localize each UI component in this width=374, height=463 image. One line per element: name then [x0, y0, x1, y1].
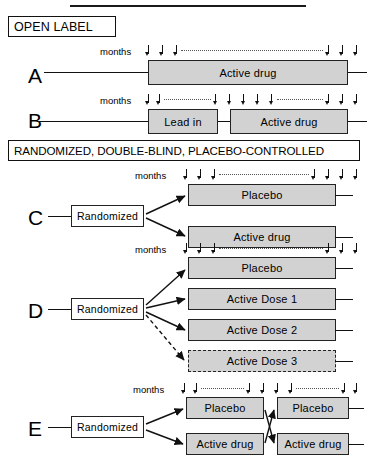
timeline-d-dose1-tail	[335, 299, 353, 300]
timeline-e-active-tail	[348, 444, 364, 445]
arm-b-box-lead-in[interactable]: Lead in	[148, 109, 218, 134]
month-ruler-c	[182, 169, 360, 182]
timeline-d-placebo-tail	[335, 268, 353, 269]
header-rule	[70, 5, 306, 7]
arm-letter-a: A	[28, 65, 42, 86]
month-arrow-icon	[340, 383, 348, 396]
month-arrow-icon	[182, 169, 190, 182]
month-arrow-icon	[182, 243, 190, 256]
month-arrow-icon	[144, 94, 152, 107]
timeline-d-dose2-tail	[335, 330, 353, 331]
arm-d-box-active-dose-3[interactable]: Active Dose 3	[188, 350, 336, 372]
timeline-a-right	[347, 72, 367, 73]
arm-letter-e: E	[28, 418, 42, 439]
month-arrow-icon	[352, 243, 360, 256]
arm-d-stem	[48, 309, 72, 310]
arm-e-crossover-arrows	[265, 410, 274, 443]
arm-e-branch-arrows	[146, 409, 183, 444]
arm-d-box-active-dose-1[interactable]: Active Dose 1	[188, 288, 336, 310]
months-label-c: months	[135, 171, 166, 181]
month-arrow-icon	[352, 45, 360, 58]
month-arrow-icon	[310, 169, 318, 182]
month-arrow-icon	[268, 94, 276, 107]
timeline-a-left	[44, 72, 150, 73]
month-arrow-icon	[352, 169, 360, 182]
arm-c-box-placebo[interactable]: Placebo	[188, 184, 336, 206]
arm-d-branch-arrow-dashed	[146, 315, 184, 360]
timeline-c-placebo-tail	[335, 195, 353, 196]
month-arrow-icon	[273, 383, 281, 396]
month-arrow-icon	[287, 383, 295, 396]
month-arrow-icon	[226, 94, 234, 107]
months-label-e: months	[133, 385, 164, 395]
section-banner-randomized: RANDOMIZED, DOUBLE-BLIND, PLACEBO-CONTRO…	[8, 140, 360, 161]
arm-e-randomized-box[interactable]: Randomized	[71, 416, 144, 438]
month-ruler-d	[182, 243, 360, 256]
months-label-b: months	[100, 96, 131, 106]
month-ruler-a	[144, 45, 360, 58]
arm-d-box-placebo[interactable]: Placebo	[188, 257, 336, 279]
month-arrow-icon	[210, 243, 218, 256]
interval-dots	[180, 45, 324, 58]
month-arrow-icon	[352, 94, 360, 107]
arm-e-box-active-drug-period2[interactable]: Active drug	[277, 433, 349, 455]
month-arrow-icon	[245, 383, 253, 396]
arm-d-box-active-dose-2[interactable]: Active Dose 2	[188, 319, 336, 341]
arm-e-stem	[48, 427, 72, 428]
interval-dots	[163, 94, 212, 107]
timeline-d-dose3-tail	[335, 361, 353, 362]
month-arrow-icon	[144, 45, 152, 58]
month-arrow-icon	[254, 94, 262, 107]
month-arrow-icon	[192, 383, 200, 396]
month-arrow-icon	[324, 94, 332, 107]
month-arrow-icon	[196, 169, 204, 182]
arm-c-branch-arrows	[146, 196, 185, 236]
arm-letter-c: C	[28, 207, 43, 228]
month-arrow-icon	[158, 45, 166, 58]
month-arrow-icon	[196, 243, 204, 256]
figure-canvas: OPEN LABEL A months Active drug B months	[0, 0, 374, 463]
month-arrow-icon	[338, 45, 346, 58]
arm-c-stem	[48, 216, 72, 217]
arm-e-box-active-drug-period1[interactable]: Active drug	[186, 433, 264, 455]
interval-dots	[276, 94, 325, 107]
timeline-e-placebo-tail	[348, 408, 364, 409]
interval-dots	[218, 169, 310, 182]
month-arrow-icon	[212, 94, 220, 107]
month-arrow-icon	[324, 169, 332, 182]
arm-d-randomized-box[interactable]: Randomized	[71, 298, 144, 320]
month-arrow-icon	[259, 383, 267, 396]
month-arrow-icon	[240, 94, 248, 107]
month-arrow-icon	[338, 94, 346, 107]
timeline-c-active-tail	[335, 237, 353, 238]
month-arrow-icon	[155, 94, 163, 107]
arm-d-branch-arrows	[146, 270, 185, 330]
months-label-d: months	[135, 245, 166, 255]
arm-b-box-active-drug[interactable]: Active drug	[230, 109, 348, 134]
month-arrow-icon	[352, 383, 360, 396]
month-ruler-e	[180, 383, 360, 396]
month-arrow-icon	[324, 243, 332, 256]
arm-c-randomized-box[interactable]: Randomized	[71, 205, 144, 227]
interval-dots	[218, 243, 324, 256]
month-arrow-icon	[338, 243, 346, 256]
month-arrow-icon	[172, 45, 180, 58]
interval-dots	[295, 383, 340, 396]
month-arrow-icon	[324, 45, 332, 58]
timeline-b-left	[38, 121, 150, 122]
section-banner-open-label: OPEN LABEL	[8, 16, 116, 37]
month-arrow-icon	[210, 169, 218, 182]
arm-e-box-placebo-period1[interactable]: Placebo	[186, 397, 264, 419]
month-ruler-b	[144, 94, 360, 107]
month-arrow-icon	[338, 169, 346, 182]
month-arrow-icon	[180, 383, 188, 396]
arm-letter-d: D	[28, 300, 43, 321]
arm-a-box-active-drug[interactable]: Active drug	[148, 60, 348, 85]
interval-dots	[200, 383, 245, 396]
arm-e-box-placebo-period2[interactable]: Placebo	[277, 397, 349, 419]
months-label-a: months	[100, 47, 131, 57]
timeline-b-right	[347, 121, 367, 122]
